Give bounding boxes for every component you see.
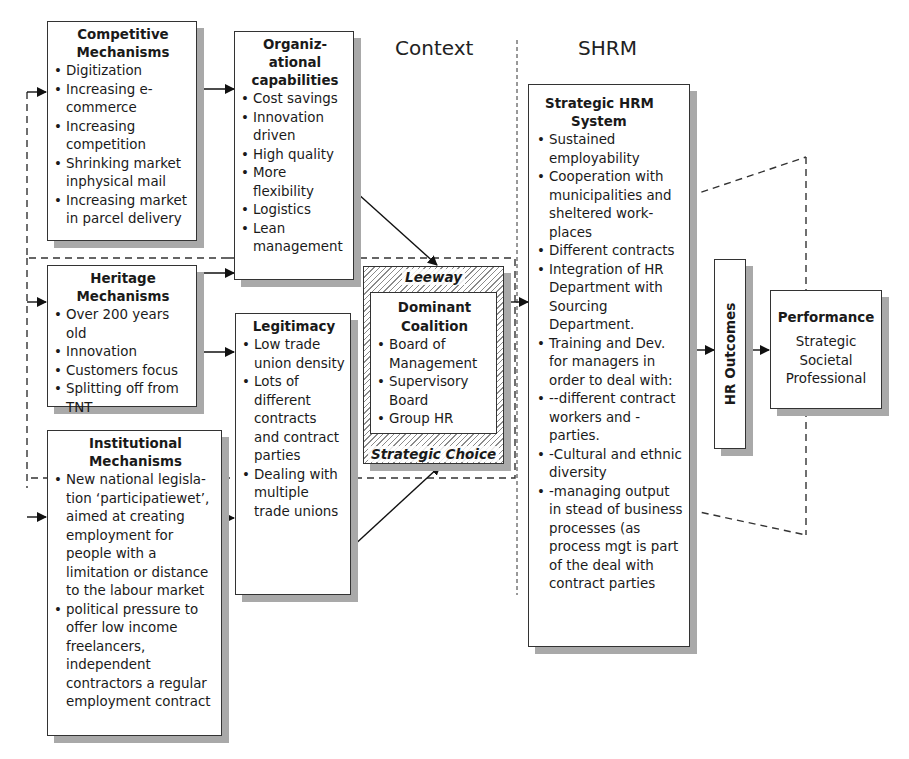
- competitive-mechanisms-title: Competitive Mechanisms: [54, 26, 192, 62]
- shrm-section-label: SHRM: [578, 36, 637, 60]
- title-line: Strategic HRM: [545, 95, 685, 113]
- list-item: Splitting off from TNT: [54, 380, 192, 417]
- list-item: Low trade union density: [242, 336, 346, 373]
- list-item: political pressure to offer low income f…: [54, 601, 217, 712]
- legitimacy-title: Legitimacy: [242, 318, 346, 336]
- list-item: Training and Dev. for managers in order …: [537, 335, 685, 391]
- organizational-capabilities-box: Organiz- ational capabilities Cost savin…: [234, 31, 354, 280]
- list-item: Shrinking market inphysical mail: [54, 155, 192, 192]
- list-item: Lean management: [241, 220, 349, 257]
- organizational-capabilities-title: Organiz- ational capabilities: [241, 36, 349, 90]
- list-item: Supervisory Board: [377, 373, 492, 410]
- hr-outcomes-box: HR Outcomes: [714, 259, 746, 449]
- institutional-mechanisms-box: Institutional Mechanisms New national le…: [47, 430, 222, 736]
- list-item: -managing output in stead of business pr…: [537, 483, 685, 594]
- title-line: ational: [241, 54, 349, 72]
- heritage-mechanisms-box: Heritage Mechanisms Over 200 years old I…: [47, 265, 197, 407]
- heritage-mechanisms-list: Over 200 years old Innovation Customers …: [54, 306, 192, 417]
- dominant-coalition-list: Board of Management Supervisory Board Gr…: [377, 336, 492, 429]
- dominant-coalition-title: Dominant Coalition: [377, 299, 492, 336]
- institutional-mechanisms-title: Institutional Mechanisms: [54, 435, 217, 471]
- heritage-mechanisms-title: Heritage Mechanisms: [54, 270, 192, 306]
- list-item: Digitization: [54, 62, 192, 81]
- legitimacy-box: Legitimacy Low trade union density Lots …: [235, 313, 351, 595]
- strategic-hrm-system-title: Strategic HRM System: [537, 95, 685, 131]
- strategic-hrm-system-list: Sustained employability Cooperation with…: [537, 131, 685, 594]
- strategic-choice-label: Strategic Choice: [364, 446, 503, 462]
- title-line: Competitive: [54, 26, 192, 44]
- competitive-mechanisms-list: Digitization Increasing e-commerce Incre…: [54, 62, 192, 229]
- title-line: Organiz-: [241, 36, 349, 54]
- list-item: Customers focus: [54, 362, 192, 381]
- list-item: Different contracts: [537, 242, 685, 261]
- leeway-strategic-choice-frame: Leeway Dominant Coalition Board of Manag…: [363, 266, 504, 464]
- list-item: Increasing e-commerce: [54, 81, 192, 118]
- list-item: Group HR: [377, 410, 492, 429]
- strategic-hrm-system-box: Strategic HRM System Sustained employabi…: [528, 84, 690, 647]
- list-item: --different contract workers and -partie…: [537, 390, 685, 446]
- list-item: Sustained employability: [537, 131, 685, 168]
- title-line: Dominant: [377, 299, 492, 318]
- institutional-mechanisms-list: New national legisla-tion ‘participatiew…: [54, 471, 217, 712]
- title-line: System: [545, 113, 685, 131]
- list-item: Cost savings: [241, 90, 349, 109]
- competitive-mechanisms-box: Competitive Mechanisms Digitization Incr…: [47, 21, 197, 241]
- title-line: Heritage: [54, 270, 192, 288]
- list-item: High quality: [241, 146, 349, 165]
- list-item: Dealing with multiple trade unions: [242, 466, 346, 522]
- performance-line: Professional: [775, 370, 877, 389]
- list-item: Increasing market in parcel delivery: [54, 192, 192, 229]
- title-line: Mechanisms: [54, 288, 192, 306]
- title-line: Mechanisms: [54, 453, 217, 471]
- list-item: Innovation: [54, 343, 192, 362]
- list-item: -Cultural and ethnic diversity: [537, 446, 685, 483]
- list-item: Logistics: [241, 201, 349, 220]
- list-item: New national legisla-tion ‘participatiew…: [54, 471, 217, 601]
- leeway-label: Leeway: [364, 269, 503, 285]
- list-item: Increasing competition: [54, 118, 192, 155]
- list-item: Cooperation with municipalities and shel…: [537, 168, 685, 242]
- title-line: Institutional: [54, 435, 217, 453]
- title-line: Coalition: [377, 318, 492, 337]
- hr-outcomes-label: HR Outcomes: [722, 303, 738, 405]
- legitimacy-list: Low trade union density Lots of differen…: [242, 336, 346, 521]
- list-item: Board of Management: [377, 336, 492, 373]
- list-item: More flexibility: [241, 164, 349, 201]
- title-line: capabilities: [241, 72, 349, 90]
- list-item: Integration of HR Department with Sourci…: [537, 261, 685, 335]
- organizational-capabilities-list: Cost savings Innovation driven High qual…: [241, 90, 349, 257]
- performance-title: Performance: [775, 309, 877, 327]
- context-section-label: Context: [395, 36, 473, 60]
- dominant-coalition-box: Dominant Coalition Board of Management S…: [370, 292, 497, 434]
- performance-line: Societal: [775, 352, 877, 371]
- list-item: Over 200 years old: [54, 306, 192, 343]
- performance-box: Performance Strategic Societal Professio…: [770, 290, 882, 409]
- list-item: Innovation driven: [241, 109, 349, 146]
- performance-line: Strategic: [775, 333, 877, 352]
- title-line: Mechanisms: [54, 44, 192, 62]
- list-item: Lots of different contracts and contract…: [242, 373, 346, 466]
